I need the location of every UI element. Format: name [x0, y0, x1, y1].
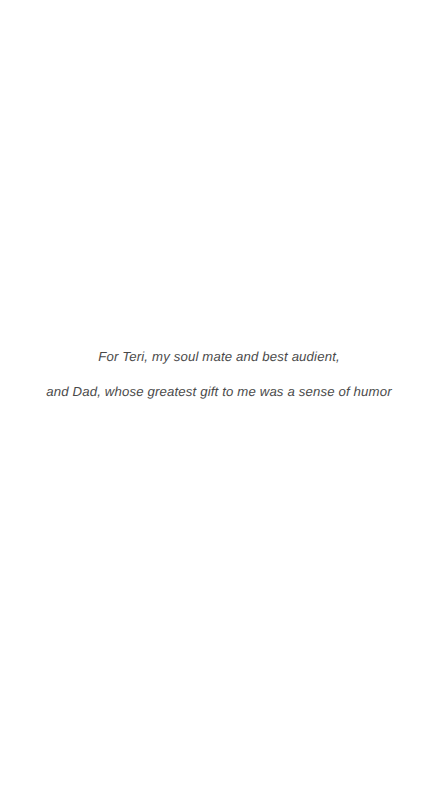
- dedication-text-block: For Teri, my soul mate and best audient,…: [0, 336, 438, 400]
- dedication-line-first: For Teri, my soul mate and best audient,: [0, 336, 438, 365]
- dedication-line-second: and Dad, whose greatest gift to me was a…: [0, 365, 438, 400]
- dedication-page: For Teri, my soul mate and best audient,…: [0, 0, 438, 808]
